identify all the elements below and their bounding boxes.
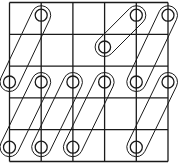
rings	[4, 9, 175, 153]
links	[0, 6, 178, 157]
link-capsule	[0, 6, 51, 92]
link-capsule	[127, 73, 178, 157]
link-capsule	[95, 6, 146, 57]
link-capsule	[63, 72, 114, 156]
ring-link-grid-diagram	[0, 0, 181, 165]
grid	[10, 3, 169, 162]
link-capsule	[32, 72, 83, 156]
link-capsule	[127, 6, 178, 92]
link-capsule	[0, 73, 51, 157]
